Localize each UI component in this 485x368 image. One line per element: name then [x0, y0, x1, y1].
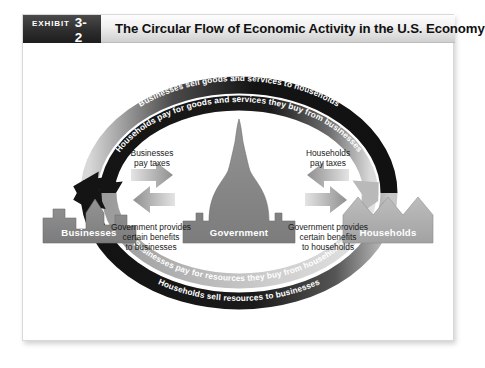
arrow-government-benefits-businesses: [133, 186, 175, 213]
figure-panel: EXHIBIT 3-2 The Circular Flow of Economi…: [22, 14, 454, 341]
circular-flow-diagram: Businesses sell goods and services to ho…: [23, 43, 455, 341]
node-label-households: Households: [360, 227, 417, 238]
svg-text:certain benefits: certain benefits: [123, 232, 180, 242]
svg-text:Government provides: Government provides: [288, 222, 368, 232]
arrow-government-benefits-households: [305, 186, 347, 213]
flow-label-households-pay-taxes: Households pay taxes: [306, 148, 350, 168]
node-label-government: Government: [210, 227, 269, 238]
exhibit-badge: EXHIBIT 3-2: [23, 15, 101, 43]
svg-text:Households: Households: [306, 148, 350, 158]
exhibit-number: 3-2: [75, 15, 92, 45]
svg-text:Businesses: Businesses: [131, 148, 174, 158]
svg-text:certain benefits: certain benefits: [300, 232, 357, 242]
exhibit-word: EXHIBIT: [32, 19, 70, 28]
svg-text:pay taxes: pay taxes: [310, 158, 346, 168]
page-title: The Circular Flow of Economic Activity i…: [115, 21, 485, 36]
node-government[interactable]: Government: [183, 119, 295, 243]
svg-text:pay taxes: pay taxes: [134, 158, 170, 168]
flow-label-government-benefits-businesses: Government provides certain benefits to …: [111, 222, 191, 252]
svg-text:Government provides: Government provides: [111, 222, 191, 232]
node-label-businesses: Businesses: [61, 227, 116, 238]
node-households[interactable]: Households: [343, 197, 433, 243]
flow-label-government-benefits-households: Government provides certain benefits to …: [288, 222, 368, 252]
svg-text:to households: to households: [302, 242, 354, 252]
svg-text:to businesses: to businesses: [125, 242, 176, 252]
exhibit-header: EXHIBIT 3-2 The Circular Flow of Economi…: [23, 15, 455, 43]
flow-label-businesses-pay-taxes: Businesses pay taxes: [131, 148, 174, 168]
